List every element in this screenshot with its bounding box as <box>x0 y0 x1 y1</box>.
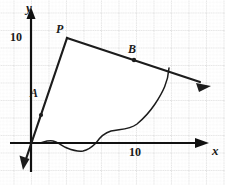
y-axis-name-label: y <box>26 0 32 16</box>
line-label-A: A <box>30 86 38 101</box>
point-P-marker <box>66 37 68 39</box>
x-axis-tick-label-10: 10 <box>129 145 141 160</box>
line-B-marker-dot <box>132 58 136 62</box>
line-label-B: B <box>128 42 136 57</box>
y-axis-tick-label-10: 10 <box>10 30 22 45</box>
figure-container: 10 10 y x P B A <box>0 0 225 185</box>
x-axis-name-label: x <box>212 143 219 159</box>
point-label-P: P <box>56 22 63 37</box>
line-A-marker-dot <box>39 113 43 117</box>
